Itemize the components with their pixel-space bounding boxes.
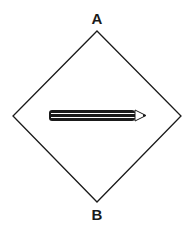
pencil-icon bbox=[49, 110, 146, 121]
diagram-canvas bbox=[0, 0, 188, 235]
